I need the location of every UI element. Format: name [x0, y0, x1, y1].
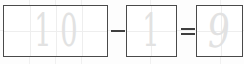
- second-operand-box[interactable]: 1: [126, 5, 177, 57]
- equals-operator: [180, 24, 195, 38]
- handwritten-digit: 1: [34, 9, 51, 53]
- handwritten-digit: 1: [142, 9, 159, 53]
- worksheet-canvas: 1 0 1 9: [0, 0, 244, 64]
- digit-cell: 0: [56, 6, 82, 56]
- handwritten-digit: 9: [205, 8, 233, 54]
- digit-cell: 1: [138, 6, 164, 56]
- digit-cell: 1: [30, 6, 56, 56]
- equals-bar: [181, 28, 195, 30]
- minus-operator: [110, 24, 125, 38]
- first-operand-box[interactable]: 1 0: [3, 5, 108, 57]
- digit-cell: 9: [205, 6, 233, 56]
- handwritten-digit: 0: [60, 9, 77, 53]
- minus-bar: [111, 30, 125, 32]
- result-box[interactable]: 9: [196, 5, 243, 57]
- equals-bar: [181, 33, 195, 35]
